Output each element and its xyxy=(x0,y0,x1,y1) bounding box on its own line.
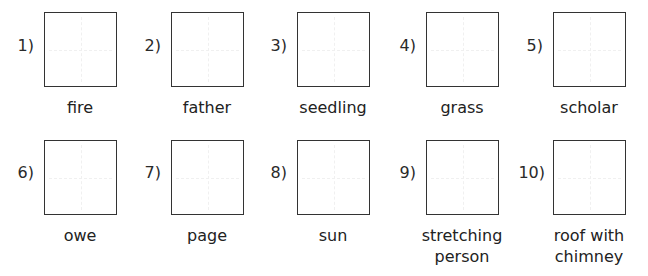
guide-line-vertical xyxy=(590,145,591,210)
item-6: 6) owe xyxy=(0,128,127,276)
guide-line-vertical xyxy=(334,17,335,82)
item-number: 5) xyxy=(513,37,543,55)
item-word: fire xyxy=(15,97,145,118)
item-number: 4) xyxy=(386,37,416,55)
item-2: 2) father xyxy=(127,0,254,130)
drawing-box[interactable] xyxy=(297,12,370,87)
item-word: stretching person xyxy=(397,225,527,267)
guide-line-vertical xyxy=(590,17,591,82)
item-number: 10) xyxy=(511,164,545,182)
drawing-box[interactable] xyxy=(426,12,499,87)
guide-line-vertical xyxy=(208,145,209,210)
item-3: 3) seedling xyxy=(253,0,380,130)
guide-line-vertical xyxy=(463,145,464,210)
item-number: 1) xyxy=(4,37,34,55)
item-9: 9) stretching person xyxy=(382,128,509,276)
item-word: owe xyxy=(15,225,145,246)
item-word: scholar xyxy=(524,97,648,118)
drawing-box[interactable] xyxy=(171,140,244,215)
drawing-box[interactable] xyxy=(44,12,117,87)
item-number: 6) xyxy=(4,164,34,182)
drawing-box[interactable] xyxy=(553,12,626,87)
item-number: 7) xyxy=(131,164,161,182)
drawing-box[interactable] xyxy=(426,140,499,215)
item-4: 4) grass xyxy=(382,0,509,130)
item-number: 9) xyxy=(386,164,416,182)
item-5: 5) scholar xyxy=(509,0,636,130)
guide-line-vertical xyxy=(463,17,464,82)
guide-line-vertical xyxy=(81,145,82,210)
guide-line-vertical xyxy=(334,145,335,210)
item-word: sun xyxy=(268,225,398,246)
item-number: 2) xyxy=(131,37,161,55)
item-8: 8) sun xyxy=(253,128,380,276)
drawing-box[interactable] xyxy=(171,12,244,87)
item-number: 8) xyxy=(257,164,287,182)
item-word: seedling xyxy=(268,97,398,118)
item-word: grass xyxy=(397,97,527,118)
drawing-box[interactable] xyxy=(297,140,370,215)
drawing-box[interactable] xyxy=(44,140,117,215)
item-10: 10) roof with chimney xyxy=(509,128,636,276)
item-1: 1) fire xyxy=(0,0,127,130)
guide-line-vertical xyxy=(208,17,209,82)
item-number: 3) xyxy=(257,37,287,55)
item-word: roof with chimney xyxy=(524,225,648,267)
guide-line-vertical xyxy=(81,17,82,82)
item-7: 7) page xyxy=(127,128,254,276)
drawing-box[interactable] xyxy=(553,140,626,215)
